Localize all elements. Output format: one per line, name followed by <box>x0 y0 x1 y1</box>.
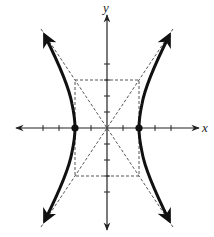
vertex-left <box>71 124 78 131</box>
x-axis-label: x <box>201 120 208 135</box>
y-axis-label: y <box>101 0 109 15</box>
hyperbola-diagram: x y <box>0 0 214 237</box>
vertex-right <box>135 124 142 131</box>
